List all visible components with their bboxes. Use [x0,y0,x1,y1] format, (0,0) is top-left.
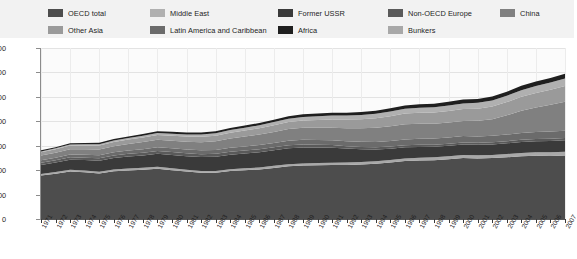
x-axis-tick-label: 1991 [331,213,344,229]
x-axis-tick-label: 1993 [360,213,373,229]
x-axis-tick-label: 2006 [549,213,562,229]
x-axis-tick-label: 1989 [302,213,315,229]
x-axis-tick-label: 1995 [389,213,402,229]
x-axis-tick-label: 1974 [84,213,97,229]
x-axis-tick-label: 1985 [244,213,257,229]
x-axis-tick-label: 2007 [564,213,577,229]
x-axis-tick-label: 1979 [156,213,169,229]
x-axis-tick-label: 1990 [317,213,330,229]
x-axis-tick-label: 1975 [98,213,111,229]
x-axis-tick-label: 1977 [127,213,140,229]
x-axis-tick-label: 1983 [215,213,228,229]
x-axis-tick-label: 1998 [433,213,446,229]
x-axis-tick-label: 1988 [287,213,300,229]
x-axis-tick-label: 1973 [69,213,82,229]
x-axis-tick-label: 1971 [40,213,53,229]
x-axis-tick-label: 1982 [200,213,213,229]
x-axis-tick-label: 1992 [346,213,359,229]
x-axis-tick-label: 2003 [506,213,519,229]
x-axis-tick-label: 1980 [171,213,184,229]
x-axis-tick-label: 1981 [186,213,199,229]
x-axis-tick-label: 1996 [404,213,417,229]
x-axis-tick-label: 1984 [229,213,242,229]
x-axis-tick-label: 2001 [477,213,490,229]
x-axis-tick-label: 1997 [418,213,431,229]
x-axis-tick-label: 2000 [462,213,475,229]
x-axis-tick-label: 2002 [491,213,504,229]
x-axis-tick-label: 1986 [258,213,271,229]
x-axis-tick-label: 1987 [273,213,286,229]
x-axis-tick-label: 1976 [113,213,126,229]
x-axis-tick-label: 2004 [520,213,533,229]
x-axis-tick-label: 1972 [55,213,68,229]
x-axis-tick-label: 1978 [142,213,155,229]
x-axis-tick-label: 2005 [535,213,548,229]
x-axis-tick-label: 1994 [375,213,388,229]
x-axis-tick-label: 1999 [448,213,461,229]
